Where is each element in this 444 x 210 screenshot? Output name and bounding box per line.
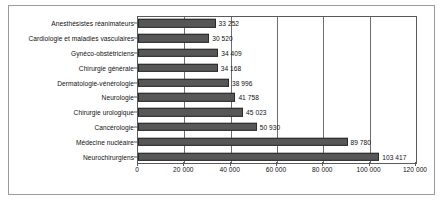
x-tick-label: 80 000 (312, 166, 332, 173)
bar-value-label: 50 930 (260, 123, 280, 130)
y-tick (134, 112, 137, 113)
bar-row: Anesthésistes réanimateurs 33 252 (0, 16, 444, 31)
bar[interactable] (138, 123, 257, 131)
bar-value-label: 45 023 (246, 109, 266, 116)
bar[interactable] (138, 93, 235, 101)
bar-row: Neurologie 41 758 (0, 90, 444, 105)
bar-value-label: 34 409 (221, 49, 241, 56)
bar-row: Neurochirurgiens 103 417 (0, 149, 444, 164)
category-label: Gynéco-obstétriciens (71, 49, 134, 56)
bar-value-label: 30 520 (212, 35, 232, 42)
category-label: Médecine nucléaire (76, 138, 134, 145)
bar-row: Dermatologie-vénérologie 38 996 (0, 75, 444, 90)
x-tick-label: 120 000 (403, 166, 427, 173)
y-tick (134, 52, 137, 53)
x-tick-label: 100 000 (357, 166, 381, 173)
bar[interactable] (138, 49, 218, 57)
chart-figure: Anesthésistes réanimateurs 33 252 Cardio… (0, 0, 444, 210)
category-label: Neurologie (102, 94, 134, 101)
bar-value-label: 33 252 (219, 20, 239, 27)
x-tick-label: 60 000 (266, 166, 286, 173)
x-tick-label: 0 (135, 166, 139, 173)
category-label: Neurochirurgiens (83, 153, 134, 160)
y-tick (134, 97, 137, 98)
x-axis: 0 20 000 40 000 60 000 80 000 100 000 12… (0, 166, 444, 180)
category-label: Chirurgie générale (79, 64, 134, 71)
bar[interactable] (138, 152, 379, 160)
y-tick (134, 141, 137, 142)
category-label: Anesthésistes réanimateurs (51, 20, 134, 27)
x-tick-label: 40 000 (219, 166, 239, 173)
y-tick (134, 156, 137, 157)
category-label: Cardiologie et maladies vasculaires (29, 35, 134, 42)
bar-value-label: 41 758 (238, 94, 258, 101)
bar-rows: Anesthésistes réanimateurs 33 252 Cardio… (0, 16, 444, 164)
bar-row: Chirurgie générale 34 168 (0, 60, 444, 75)
bar-value-label: 38 996 (232, 79, 252, 86)
bar-row: Cardiologie et maladies vasculaires 30 5… (0, 31, 444, 46)
bar-value-label: 103 417 (382, 153, 406, 160)
y-tick (134, 23, 137, 24)
bar-value-label: 89 780 (351, 138, 371, 145)
y-tick (134, 82, 137, 83)
y-tick (134, 126, 137, 127)
bar-row: Médecine nucléaire 89 780 (0, 134, 444, 149)
category-label: Dermatologie-vénérologie (57, 79, 134, 86)
bar-row: Cancérologie 50 930 (0, 120, 444, 135)
category-label: Cancérologie (95, 123, 134, 130)
bar-row: Chirurgie urologique 45 023 (0, 105, 444, 120)
bar[interactable] (138, 138, 348, 146)
bar[interactable] (138, 108, 243, 116)
x-tick-label: 20 000 (173, 166, 193, 173)
y-tick (134, 67, 137, 68)
bar[interactable] (138, 64, 218, 72)
category-label: Chirurgie urologique (74, 109, 134, 116)
bar[interactable] (138, 19, 216, 27)
y-tick (134, 38, 137, 39)
bar-value-label: 34 168 (221, 64, 241, 71)
bar[interactable] (138, 34, 209, 42)
bar-row: Gynéco-obstétriciens 34 409 (0, 46, 444, 61)
bar[interactable] (138, 78, 229, 86)
